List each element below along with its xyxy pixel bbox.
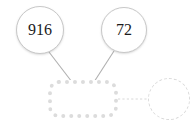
diagram-canvas: 916 72 [0, 0, 191, 120]
node-rounded-rect[interactable] [48, 80, 118, 118]
edge-right-circle-to-rect [94, 51, 114, 82]
node-circle-72-label: 72 [116, 22, 132, 38]
node-rounded-rect-label [52, 84, 114, 114]
edge-left-circle-to-rect [49, 52, 72, 82]
node-circle-placeholder[interactable] [148, 78, 190, 120]
node-circle-72[interactable]: 72 [101, 7, 147, 53]
node-circle-916-label: 916 [28, 22, 52, 38]
node-circle-916[interactable]: 916 [16, 6, 64, 54]
